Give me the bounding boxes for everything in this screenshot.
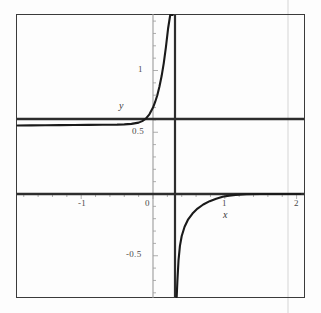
figure-canvas: -1 0 1 2 1 0.5 -0.5 y x bbox=[0, 0, 321, 313]
y-tick-label-neg0p5: -0.5 bbox=[126, 249, 141, 259]
x-tick-label-neg1: -1 bbox=[78, 198, 86, 208]
x-tick-label-1: 1 bbox=[222, 198, 227, 208]
y-axis-title: y bbox=[119, 100, 123, 111]
x-tick-label-2: 2 bbox=[294, 198, 299, 208]
y-tick-label-1: 1 bbox=[138, 64, 143, 74]
y-axis-minor-ticks bbox=[153, 21, 158, 293]
curve-right-branch bbox=[176, 194, 300, 297]
x-axis-title: x bbox=[223, 209, 227, 220]
plot-vector-layer bbox=[0, 0, 321, 313]
curve-left-branch bbox=[18, 15, 173, 125]
x-tick-label-0: 0 bbox=[145, 198, 150, 208]
y-tick-label-0p5: 0.5 bbox=[132, 126, 144, 136]
